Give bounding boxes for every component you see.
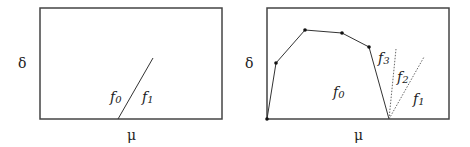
left-y-axis-label: δ [18,55,26,71]
left-frame [40,8,222,119]
right-panel: δ μ f0 f1 f2 f3 [245,8,449,143]
right-x-axis-label: μ [354,127,363,143]
vertex-point [367,45,371,49]
left-boundary-line [118,58,153,119]
vertex-markers [265,28,371,121]
diagram-canvas: δ μ f0 f1 δ μ f0 f1 f2 f3 [0,0,470,147]
vertex-point [274,61,278,65]
vertex-point [265,117,269,121]
right-region-f2: f2 [396,69,409,85]
right-region-f1: f1 [412,91,425,107]
right-region-f3: f3 [377,50,390,66]
left-panel: δ μ f0 f1 [18,8,222,143]
left-x-axis-label: μ [127,127,136,143]
left-region-f0: f0 [109,89,122,105]
boundary-polyline [267,30,389,119]
dotted-boundary-f1-f2 [389,57,424,119]
right-y-axis-label: δ [245,55,253,71]
vertex-point [303,28,307,32]
left-region-f1: f1 [141,89,154,105]
vertex-point [340,31,344,35]
right-region-f0: f0 [332,84,345,100]
